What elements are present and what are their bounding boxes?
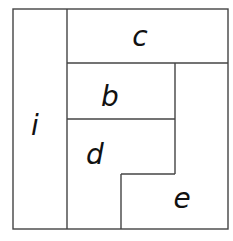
region-label-i: i (31, 109, 39, 142)
region-label-e: e (173, 182, 190, 215)
region-label-d: d (86, 138, 104, 171)
partition-diagram: i c b d e (0, 0, 233, 241)
region-label-c: c (132, 20, 148, 53)
region-label-b: b (101, 80, 119, 113)
